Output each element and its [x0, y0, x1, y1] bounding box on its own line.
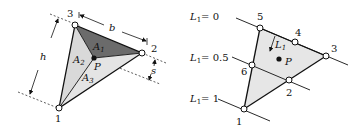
- node-2: [286, 77, 292, 83]
- point-p: [276, 56, 281, 61]
- dimension-label-b: b: [109, 22, 115, 33]
- point-label-p: P: [284, 56, 292, 67]
- node-1: [241, 106, 247, 112]
- right-triangle-diagram: 5 4 3 6 2 1 P L1 L1= 0 L1= 0.5 L1= 1: [189, 11, 348, 127]
- node-label-3: 3: [67, 8, 73, 19]
- dashed-line-bottom: [18, 92, 58, 108]
- node-label-2: 2: [286, 87, 292, 98]
- node-1: [56, 105, 62, 111]
- node-label-2: 2: [151, 43, 157, 54]
- figure: 3 2 1 P A1 A2 A3 b h s 5 4 3: [0, 0, 364, 132]
- node-6: [249, 62, 255, 68]
- h-arrow-top: [51, 19, 58, 38]
- point-p: [91, 55, 96, 60]
- dimension-label-h: h: [40, 51, 46, 62]
- node-label-5: 5: [257, 11, 263, 22]
- point-label-p: P: [93, 61, 101, 72]
- b-arrow-right: [122, 32, 146, 41]
- node-5: [257, 25, 263, 31]
- level-label-1: L1= 1: [189, 93, 219, 106]
- node-4: [292, 39, 298, 45]
- h-arrow-bottom: [30, 70, 38, 94]
- level-label-0: L1= 0: [189, 11, 219, 24]
- level-label-0-5: L1= 0.5: [189, 52, 229, 65]
- node-label-4: 4: [295, 27, 301, 38]
- dashed-line-right-upper: [142, 53, 166, 63]
- node-3: [72, 22, 78, 28]
- b-arrow-left: [80, 15, 104, 25]
- triangle-fill: [244, 28, 326, 109]
- node-label-3: 3: [331, 43, 337, 54]
- dimension-label-s: s: [151, 65, 156, 76]
- node-label-1: 1: [236, 116, 242, 127]
- left-triangle-diagram: 3 2 1 P A1 A2 A3 b h s: [18, 8, 166, 124]
- node-2: [139, 50, 145, 56]
- node-label-6: 6: [241, 66, 247, 77]
- node-3: [323, 53, 329, 59]
- node-label-1: 1: [55, 113, 61, 124]
